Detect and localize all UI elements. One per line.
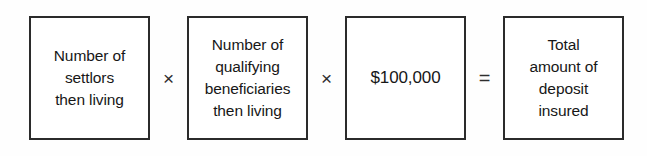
term-line: qualifying bbox=[215, 56, 280, 78]
term-box-amount: $100,000 bbox=[345, 16, 466, 140]
term-box-result: Total amount of deposit insured bbox=[503, 16, 624, 140]
deposit-insurance-formula-diagram: Number of settlors then living × Number … bbox=[0, 0, 647, 156]
multiplication-sign-icon: × bbox=[150, 69, 187, 88]
term-line: insured bbox=[538, 100, 588, 122]
term-box-beneficiaries: Number of qualifying beneficiaries then … bbox=[187, 16, 308, 140]
term-line: beneficiaries bbox=[205, 78, 291, 100]
term-line: amount of bbox=[529, 56, 597, 78]
term-line: $100,000 bbox=[370, 67, 440, 89]
term-line: deposit bbox=[539, 78, 588, 100]
term-line: Number of bbox=[54, 45, 125, 67]
term-line: then living bbox=[55, 89, 124, 111]
term-box-settlors: Number of settlors then living bbox=[29, 16, 150, 140]
term-line: settlors bbox=[65, 67, 114, 89]
term-line: Number of bbox=[212, 34, 283, 56]
formula-row: Number of settlors then living × Number … bbox=[0, 0, 647, 156]
term-line: Total bbox=[547, 34, 579, 56]
equals-sign-icon: = bbox=[466, 69, 503, 88]
term-line: then living bbox=[213, 100, 282, 122]
multiplication-sign-icon: × bbox=[308, 69, 345, 88]
